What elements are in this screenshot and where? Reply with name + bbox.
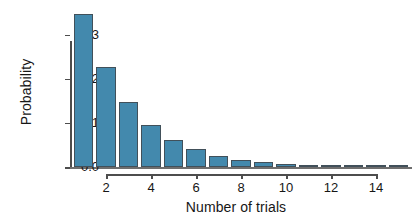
bar xyxy=(74,14,94,167)
x-axis: 2468101214 xyxy=(70,174,412,198)
x-axis-tick-label: 4 xyxy=(136,180,166,195)
y-axis-tick xyxy=(65,167,70,169)
x-axis-tick-label: 2 xyxy=(91,180,121,195)
bar xyxy=(299,165,319,167)
plot-area: 0.00.10.20.3 xyxy=(70,8,412,168)
bar xyxy=(254,162,274,167)
bar-chart-figure: Probability 0.00.10.20.3 2468101214 Numb… xyxy=(0,0,419,224)
x-axis-tick xyxy=(106,174,108,179)
x-axis-tick xyxy=(286,174,288,179)
x-axis-tick-label: 12 xyxy=(316,180,346,195)
bar xyxy=(366,165,386,167)
bar xyxy=(344,165,364,167)
x-axis-tick-label: 8 xyxy=(226,180,256,195)
bar xyxy=(231,160,251,168)
y-axis-tick xyxy=(65,35,70,37)
bar xyxy=(164,140,184,167)
x-axis-title: Number of trials xyxy=(68,199,404,215)
bar xyxy=(96,67,116,167)
x-axis-tick xyxy=(331,174,333,179)
x-axis-tick-label: 14 xyxy=(361,180,391,195)
y-axis-title: Probability xyxy=(18,22,34,162)
bar xyxy=(389,165,409,167)
bar xyxy=(321,165,341,167)
x-axis-baseline xyxy=(70,167,412,169)
bar xyxy=(209,156,229,167)
x-axis-tick xyxy=(196,174,198,179)
x-axis-tick xyxy=(151,174,153,179)
bar xyxy=(141,125,161,167)
x-axis-tick xyxy=(241,174,243,179)
x-axis-tick xyxy=(376,174,378,179)
bar xyxy=(276,164,296,167)
x-axis-tick-label: 10 xyxy=(271,180,301,195)
y-axis-tick xyxy=(65,79,70,81)
y-axis-tick xyxy=(65,123,70,125)
bar xyxy=(119,102,139,167)
bar xyxy=(186,149,206,167)
x-axis-tick-label: 6 xyxy=(181,180,211,195)
y-axis-line xyxy=(70,41,72,168)
